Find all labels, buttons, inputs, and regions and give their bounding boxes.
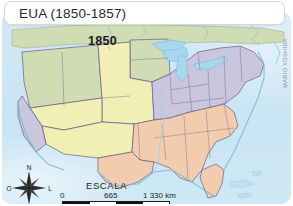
figure-caption-box: EUA (1850-1857) bbox=[4, 1, 285, 25]
compass-label-east: L bbox=[48, 185, 52, 192]
scale-bar-group: ESCALA 0 665 1 330 km bbox=[60, 180, 178, 204]
scale-tick-start: 0 bbox=[60, 191, 64, 200]
scale-segment-4 bbox=[143, 202, 170, 204]
scale-bar-graphic bbox=[62, 201, 170, 204]
scale-tick-mid: 665 bbox=[104, 191, 117, 200]
compass-label-west: O bbox=[6, 185, 11, 192]
figure-caption-text: EUA (1850-1857) bbox=[5, 6, 126, 21]
scale-label: ESCALA bbox=[86, 180, 127, 191]
scale-tick-labels: 0 665 1 330 km bbox=[60, 191, 178, 201]
figure-root: 1850 N S O bbox=[0, 0, 293, 206]
map-year-title: 1850 bbox=[88, 34, 117, 48]
caribbean-islands bbox=[230, 171, 262, 198]
scale-segment-2 bbox=[90, 202, 117, 204]
region-florida bbox=[200, 164, 224, 198]
compass-label-north: N bbox=[27, 164, 32, 171]
map-plate: 1850 N S O bbox=[2, 12, 291, 204]
scale-segment-1 bbox=[63, 202, 90, 204]
compass-rose-icon: N S O L bbox=[5, 162, 57, 204]
map-credit: MÁRIO YOSHIDA bbox=[279, 38, 290, 124]
compass-rose: N S O L bbox=[5, 162, 57, 204]
scale-tick-end: 1 330 km bbox=[143, 191, 176, 200]
scale-segment-3 bbox=[116, 202, 143, 204]
map-credit-text: MÁRIO YOSHIDA bbox=[282, 38, 288, 88]
